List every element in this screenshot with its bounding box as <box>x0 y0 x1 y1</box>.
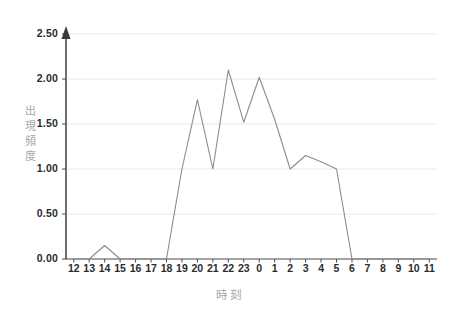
x-axis-tick-label: 18 <box>159 262 174 274</box>
x-axis-tick-label: 17 <box>143 262 158 274</box>
y-axis-title: 出現頻度 <box>22 104 38 164</box>
x-axis-tick-label: 6 <box>344 262 359 274</box>
x-axis-tick-label: 22 <box>221 262 236 274</box>
data-series-line <box>74 70 430 259</box>
x-axis-tick-label: 19 <box>174 262 189 274</box>
x-axis-tick-label: 3 <box>298 262 313 274</box>
x-axis-tick-label: 14 <box>97 262 112 274</box>
x-axis-tick-label: 2 <box>282 262 297 274</box>
x-axis-tick-label: 1 <box>267 262 282 274</box>
y-axis-tick-label: 2.50 <box>24 27 58 39</box>
x-axis-tick-label: 13 <box>81 262 96 274</box>
x-axis-title: 時刻 <box>0 286 460 302</box>
x-axis-tick-label: 5 <box>329 262 344 274</box>
gridlines <box>66 34 437 214</box>
y-axis-title-char: 現 <box>22 119 38 134</box>
chart-figure: 0.000.501.001.502.002.50 121314151617181… <box>0 0 460 316</box>
x-axis-tick-label: 0 <box>252 262 267 274</box>
x-axis-tick-label: 7 <box>360 262 375 274</box>
x-axis-tick-label: 16 <box>128 262 143 274</box>
y-axis-tick-label: 0.00 <box>24 252 58 264</box>
x-axis-tick-label: 8 <box>375 262 390 274</box>
x-axis-tick-label: 20 <box>190 262 205 274</box>
x-axis-tick-label: 15 <box>112 262 127 274</box>
x-axis-tick-label: 11 <box>422 262 437 274</box>
x-axis-tick-label: 9 <box>391 262 406 274</box>
x-axis-tick-label: 10 <box>406 262 421 274</box>
y-axis-title-char: 出 <box>22 104 38 119</box>
y-axis-arrow-icon <box>62 26 71 39</box>
y-axis-title-char: 頻 <box>22 134 38 149</box>
x-axis-tick-label: 12 <box>66 262 81 274</box>
y-axis-title-char: 度 <box>22 149 38 164</box>
x-axis-tick-label: 4 <box>313 262 328 274</box>
y-axis-tick-label: 2.00 <box>24 72 58 84</box>
x-axis-tick-label: 23 <box>236 262 251 274</box>
x-axis-tick-label: 21 <box>205 262 220 274</box>
y-axis-tick-label: 0.50 <box>24 207 58 219</box>
